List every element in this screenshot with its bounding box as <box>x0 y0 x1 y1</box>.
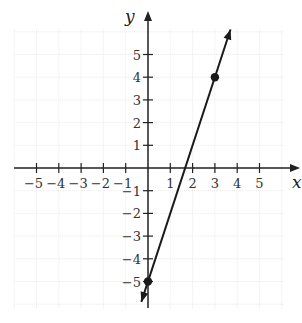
x-tick-label: −2 <box>91 176 110 191</box>
coordinate-plane: −5−4−3−2−112345−5−4−3−2−112345xy <box>0 0 302 323</box>
x-tick-label: 2 <box>188 176 196 191</box>
y-tick-label: −4 <box>122 252 141 267</box>
y-tick-label: 2 <box>133 116 141 131</box>
y-axis-label: y <box>124 6 135 26</box>
line-arrow-up-icon <box>224 30 232 41</box>
y-tick-label: −5 <box>122 275 141 290</box>
y-tick-label: −1 <box>122 184 141 199</box>
y-tick-label: 5 <box>133 48 141 63</box>
x-tick-label: 5 <box>255 176 263 191</box>
graph-line <box>141 30 230 302</box>
x-axis-arrow-icon <box>290 164 300 172</box>
x-tick-label: −5 <box>24 176 43 191</box>
x-tick-label: −3 <box>69 176 88 191</box>
line-arrow-down-icon <box>141 291 149 302</box>
data-point <box>144 277 152 285</box>
y-tick-label: 4 <box>133 70 141 85</box>
y-tick-label: −3 <box>122 229 141 244</box>
x-tick-label: 1 <box>166 176 174 191</box>
x-tick-label: 3 <box>211 176 219 191</box>
y-tick-label: 1 <box>133 138 141 153</box>
y-tick-label: 3 <box>133 93 141 108</box>
x-tick-label: −4 <box>46 176 65 191</box>
x-axis-label: x <box>292 172 302 192</box>
y-axis-arrow-icon <box>144 11 152 21</box>
y-tick-label: −2 <box>122 206 141 221</box>
data-point <box>211 73 219 81</box>
x-tick-label: 4 <box>233 176 241 191</box>
